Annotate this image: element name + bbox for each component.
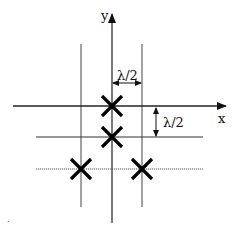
x-axis-label: x	[218, 111, 226, 126]
footnote-mark: ·	[7, 217, 10, 226]
array-layout-diagram: λ/2 λ/2 y x ·	[0, 0, 235, 232]
diagram-svg: λ/2 λ/2 y x ·	[0, 0, 235, 232]
horizontal-spacing-label: λ/2	[117, 68, 138, 83]
y-axis-label: y	[100, 8, 109, 23]
vertical-spacing-label: λ/2	[163, 115, 184, 130]
